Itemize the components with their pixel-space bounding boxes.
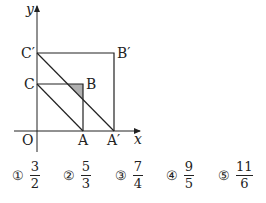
denominator: 2: [31, 177, 39, 191]
choice-2[interactable]: ② 53: [63, 160, 91, 191]
denominator: 4: [134, 177, 142, 191]
point-c-prime-label: C′: [21, 45, 35, 61]
point-c-label: C: [24, 76, 35, 92]
choice-4[interactable]: ④ 95: [166, 160, 194, 191]
denominator: 6: [240, 177, 248, 191]
choice-marker: ②: [63, 168, 75, 183]
choice-5[interactable]: ⑤ 116: [218, 160, 253, 191]
fraction: 53: [81, 160, 91, 191]
fraction: 32: [30, 160, 40, 191]
numerator: 3: [31, 160, 39, 174]
numerator: 7: [134, 160, 142, 174]
y-axis-label: y: [25, 1, 35, 17]
point-b-label: B: [86, 76, 96, 92]
numerator: 11: [236, 160, 253, 174]
choice-3[interactable]: ③ 74: [115, 160, 143, 191]
choice-marker: ⑤: [218, 168, 230, 183]
numerator: 9: [185, 160, 193, 174]
fraction: 95: [184, 160, 194, 191]
denominator: 5: [185, 177, 193, 191]
fraction: 74: [133, 160, 143, 191]
numerator: 5: [82, 160, 90, 174]
fraction: 116: [236, 160, 253, 191]
point-a-prime-label: A′: [106, 132, 120, 148]
origin-label: O: [22, 132, 33, 148]
answer-choices: ① 32 ② 53 ③ 74 ④ 95 ⑤ 116: [0, 160, 266, 200]
point-b-prime-label: B′: [117, 45, 130, 61]
point-a-label: A: [77, 132, 89, 148]
segment-c-prime-a-prime: [37, 53, 114, 131]
choice-1[interactable]: ① 32: [12, 160, 40, 191]
choice-marker: ④: [166, 168, 178, 183]
choice-marker: ①: [12, 168, 24, 183]
denominator: 3: [82, 177, 90, 191]
choice-marker: ③: [115, 168, 127, 183]
x-axis-label: x: [134, 131, 142, 147]
